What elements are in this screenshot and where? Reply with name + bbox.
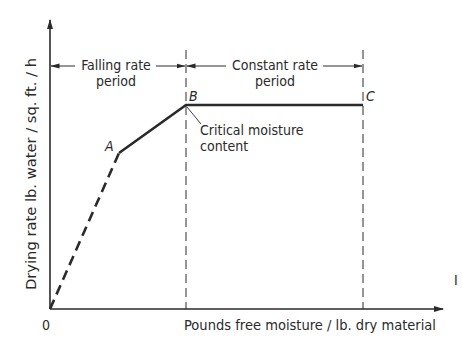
x-axis-label: Pounds free moisture / lb. dry material	[184, 317, 436, 333]
falling-rate-label: Falling rate	[81, 57, 151, 73]
drying-rate-diagram: Falling rate period Constant rate period…	[0, 0, 462, 359]
point-label-b: B	[189, 88, 198, 104]
critical-moisture-label: Critical moisture	[200, 122, 304, 138]
critical-moisture-label-2: content	[200, 138, 248, 154]
constant-rate-label: Constant rate	[232, 57, 318, 73]
y-axis-label: Drying rate lb. water / sq. ft. / h	[23, 58, 39, 290]
constant-rate-label-2: period	[255, 73, 295, 89]
critical-leader-line	[187, 107, 201, 124]
point-label-a: A	[104, 138, 114, 154]
segment-origin-a	[50, 153, 119, 309]
edge-glyph: I	[454, 272, 458, 288]
origin-label: 0	[42, 317, 50, 333]
falling-rate-label-2: period	[96, 73, 136, 89]
point-label-c: C	[366, 88, 375, 104]
